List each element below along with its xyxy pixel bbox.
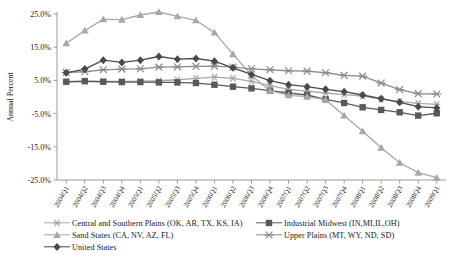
series-marker-x <box>265 66 274 73</box>
series-marker-square <box>415 112 421 118</box>
y-axis-tick-label: -25.0% <box>28 176 52 185</box>
series-marker-triangle <box>53 231 61 238</box>
series-marker-x <box>99 66 108 73</box>
series-marker-asterisk <box>248 78 255 84</box>
series-marker-diamond <box>396 98 403 106</box>
series-marker-square <box>230 84 236 90</box>
legend-item-label: Central and Southern Plains (OK, AR, TX,… <box>72 219 243 228</box>
legend-marker-icon <box>51 241 63 253</box>
x-axis-tick-label: 2008Q3 <box>386 185 405 209</box>
x-axis-tick-label: 2006Q1 <box>201 185 220 209</box>
series-marker-x <box>284 67 293 74</box>
series-marker-triangle <box>211 29 219 36</box>
legend-key-square-icon <box>256 218 282 228</box>
chart-legend: Central and Southern Plains (OK, AR, TX,… <box>0 218 452 266</box>
series-marker-asterisk <box>53 220 60 226</box>
series-marker-square <box>82 78 88 84</box>
series-marker-square <box>266 220 272 226</box>
x-axis-tick-label: 2007Q4 <box>330 185 349 209</box>
series-marker-square <box>156 79 162 85</box>
chart-figure: 25.0%15.0%5.0%-5.0%-15.0%-25.0%Annual Pe… <box>0 0 452 266</box>
legend-item-4[interactable]: United States <box>44 242 117 252</box>
legend-item-label: Sand States (CA, NV, AZ, FL) <box>72 231 173 240</box>
x-axis-tick-label: 2009Q1 <box>423 185 442 209</box>
series-marker-square <box>137 79 143 85</box>
series-marker-triangle <box>81 27 89 34</box>
legend-marker-icon <box>263 217 275 229</box>
series-marker-square <box>100 79 106 85</box>
series-marker-diamond <box>192 54 199 62</box>
series-marker-x <box>340 72 349 79</box>
y-axis-title: Annual Percent <box>6 71 15 121</box>
series-marker-x <box>377 80 386 87</box>
series-marker-square <box>211 82 217 88</box>
legend-item-label: United States <box>72 243 117 252</box>
legend-key-x-dash-icon <box>256 230 282 240</box>
x-axis-tick-label: 2005Q1 <box>127 185 146 209</box>
series-3 <box>62 63 442 98</box>
x-axis-tick-label: 2008Q1 <box>349 185 368 209</box>
series-marker-asterisk <box>229 75 236 81</box>
series-marker-x <box>414 90 423 97</box>
series-marker-square <box>378 107 384 113</box>
series-marker-x <box>358 73 367 80</box>
legend-item-3[interactable]: Upper Plains (MT, WY, ND, SD) <box>256 230 394 240</box>
x-axis-tick-label: 2004Q1 <box>52 185 71 209</box>
series-marker-x <box>154 64 163 71</box>
series-marker-x <box>173 63 182 70</box>
series-marker-diamond <box>118 58 125 66</box>
x-axis-tick-label: 2007Q1 <box>275 185 294 209</box>
x-axis-tick-label: 2007Q3 <box>312 185 331 209</box>
series-marker-x <box>321 69 330 76</box>
x-axis-tick-label: 2006Q3 <box>238 185 257 209</box>
legend-item-label: Upper Plains (MT, WY, ND, SD) <box>284 231 394 240</box>
series-marker-square <box>63 79 69 85</box>
legend-key-asterisk-icon <box>44 218 70 228</box>
series-2 <box>62 8 440 180</box>
series-marker-diamond <box>266 77 273 85</box>
x-axis-tick-label: 2004Q4 <box>108 185 127 209</box>
series-marker-diamond <box>303 83 310 91</box>
series-marker-square <box>341 100 347 106</box>
series-marker-diamond <box>359 91 366 99</box>
series-marker-square <box>174 79 180 85</box>
y-axis-tick-label: -5.0% <box>32 110 52 119</box>
legend-key-diamond-icon <box>44 242 70 252</box>
series-marker-diamond <box>155 52 162 60</box>
y-axis-tick-label: 15.0% <box>30 43 51 52</box>
y-axis-tick-label: 25.0% <box>30 10 51 19</box>
series-marker-asterisk <box>211 74 218 80</box>
series-marker-diamond <box>137 56 144 64</box>
series-marker-x <box>432 91 441 98</box>
x-axis-tick-label: 2004Q3 <box>90 185 109 209</box>
series-marker-x <box>395 86 404 93</box>
y-axis-tick-label: -15.0% <box>28 143 52 152</box>
x-axis-tick-label: 2005Q4 <box>182 185 201 209</box>
series-marker-x <box>136 65 145 72</box>
x-axis-tick-label: 2006Q2 <box>219 185 238 209</box>
legend-key-triangle-icon <box>44 230 70 240</box>
legend-marker-icon <box>51 217 63 229</box>
legend-item-1[interactable]: Industrial Midwest (IN,MI,IL,OH) <box>256 218 400 228</box>
series-marker-square <box>359 104 365 110</box>
series-marker-diamond <box>174 55 181 63</box>
series-marker-triangle <box>414 169 422 176</box>
series-marker-diamond <box>53 243 60 251</box>
series-marker-square <box>396 109 402 115</box>
legend-marker-icon <box>263 229 275 241</box>
series-marker-square <box>119 79 125 85</box>
series-marker-diamond <box>100 56 107 64</box>
series-marker-x <box>302 68 311 75</box>
x-axis-tick-label: 2007Q2 <box>293 185 312 209</box>
legend-item-2[interactable]: Sand States (CA, NV, AZ, FL) <box>44 230 173 240</box>
series-marker-x <box>191 63 200 70</box>
series-marker-square <box>193 80 199 86</box>
x-axis-tick-label: 2008Q2 <box>367 185 386 209</box>
legend-item-0[interactable]: Central and Southern Plains (OK, AR, TX,… <box>44 218 243 228</box>
y-axis-tick-label: 5.0% <box>34 76 51 85</box>
series-marker-triangle <box>155 8 163 15</box>
x-axis-tick-label: 2008Q4 <box>404 185 423 209</box>
x-axis-tick-label: 2005Q3 <box>164 185 183 209</box>
x-axis-tick-label: 2005Q2 <box>145 185 164 209</box>
series-marker-triangle <box>62 39 70 46</box>
